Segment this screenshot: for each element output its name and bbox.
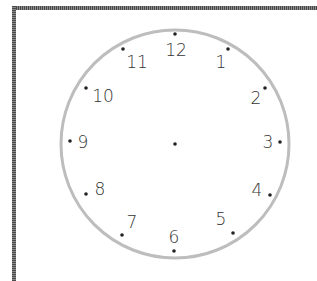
- hour-dot-6: [172, 249, 176, 253]
- hour-numeral-12: 12: [165, 40, 187, 60]
- hour-dot-2: [263, 86, 267, 90]
- hour-dot-5: [231, 231, 235, 235]
- hour-dot-9: [68, 139, 72, 143]
- hour-numeral-5: 5: [216, 209, 227, 229]
- hour-dot-7: [120, 233, 124, 237]
- hour-numeral-6: 6: [169, 227, 180, 247]
- hour-numeral-8: 8: [95, 179, 106, 199]
- hour-dot-1: [226, 47, 230, 51]
- hour-dot-11: [121, 47, 125, 51]
- clock-face: 121234567891011: [0, 0, 317, 281]
- hour-dot-4: [268, 193, 272, 197]
- hour-dot-8: [84, 192, 88, 196]
- hour-dot-12: [173, 32, 177, 36]
- hour-numeral-9: 9: [78, 132, 89, 152]
- hour-numeral-3: 3: [263, 132, 274, 152]
- hour-numeral-7: 7: [127, 212, 138, 232]
- hour-numeral-11: 11: [126, 52, 148, 72]
- hour-numeral-10: 10: [92, 86, 114, 106]
- hour-numeral-1: 1: [216, 52, 227, 72]
- center-dot: [173, 142, 177, 146]
- hour-dot-3: [278, 140, 282, 144]
- hour-numeral-4: 4: [252, 180, 263, 200]
- hour-numeral-2: 2: [251, 88, 262, 108]
- hour-dot-10: [84, 86, 88, 90]
